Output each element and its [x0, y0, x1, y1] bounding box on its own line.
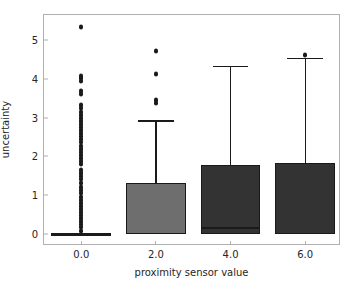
plot-axes: 012345 0.02.04.06.0 [43, 14, 340, 245]
x-tick-4.0: 4.0 [223, 244, 239, 260]
box-6.0 [275, 163, 335, 233]
whisker-cap-upper [138, 120, 174, 121]
y-axis-label: uncertainty [0, 14, 13, 245]
outlier-point [79, 162, 83, 167]
y-tick-label: 1 [32, 190, 44, 201]
whisker-cap-upper [287, 58, 323, 59]
y-tick-label: 4 [32, 74, 44, 85]
outlier-point [154, 72, 158, 77]
outlier-point [154, 101, 158, 106]
outlier-point [79, 91, 83, 96]
boxplot-artists [44, 15, 339, 244]
median-line-2.0 [126, 233, 186, 235]
median-line-6.0 [275, 233, 335, 235]
y-tick-label: 5 [32, 35, 44, 46]
y-tick-5: 5 [32, 35, 44, 46]
outlier-point [303, 53, 307, 58]
y-tick-1: 1 [32, 190, 44, 201]
outlier-point [154, 48, 158, 53]
outlier-point [79, 24, 83, 29]
x-tick-label: 6.0 [297, 244, 313, 260]
x-tick-label: 4.0 [223, 244, 239, 260]
x-tick-6.0: 6.0 [297, 244, 313, 260]
whisker-upper [230, 66, 231, 165]
boxplot-figure: 012345 0.02.04.06.0 proximity sensor val… [0, 0, 354, 287]
y-tick-2: 2 [32, 151, 44, 162]
median-line-0.0 [51, 233, 111, 235]
outlier-point [79, 78, 83, 83]
median-line-4.0 [201, 227, 261, 229]
y-tick-4: 4 [32, 74, 44, 85]
whisker-cap-upper [213, 66, 249, 67]
x-tick-label: 0.0 [73, 244, 89, 260]
whisker-upper [155, 121, 156, 183]
y-tick-label: 0 [32, 228, 44, 239]
y-tick-3: 3 [32, 112, 44, 123]
y-tick-label: 2 [32, 151, 44, 162]
x-tick-label: 2.0 [148, 244, 164, 260]
outlier-point [79, 228, 83, 233]
x-axis-label: proximity sensor value [43, 267, 340, 278]
x-tick-0.0: 0.0 [73, 244, 89, 260]
whisker-upper [305, 59, 306, 164]
box-2.0 [126, 183, 186, 234]
x-tick-2.0: 2.0 [148, 244, 164, 260]
box-4.0 [201, 165, 261, 234]
y-tick-0: 0 [32, 228, 44, 239]
y-tick-label: 3 [32, 112, 44, 123]
